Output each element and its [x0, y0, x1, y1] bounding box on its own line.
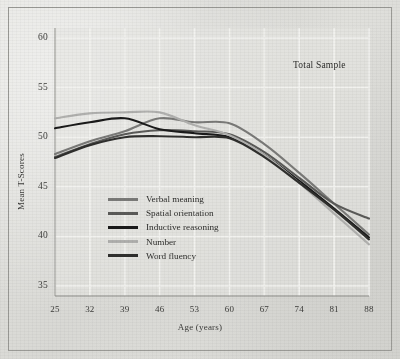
x-tick-label: 25: [41, 304, 69, 314]
legend-swatch-line-icon: [108, 198, 138, 201]
legend-item: Word fluency: [108, 249, 219, 263]
x-tick-label: 74: [285, 304, 313, 314]
y-tick-label: 50: [24, 131, 48, 141]
legend-swatch-line-icon: [108, 226, 138, 229]
legend-item: Verbal meaning: [108, 192, 219, 206]
legend-label: Spatial orientation: [146, 208, 214, 218]
x-tick-label: 39: [111, 304, 139, 314]
y-tick-label: 60: [24, 32, 48, 42]
legend-label: Number: [146, 237, 176, 247]
legend-item: Spatial orientation: [108, 206, 219, 220]
chart-legend: Verbal meaningSpatial orientationInducti…: [108, 192, 219, 263]
x-tick-label: 81: [320, 304, 348, 314]
x-tick-label: 53: [181, 304, 209, 314]
x-tick-label: 67: [250, 304, 278, 314]
legend-label: Verbal meaning: [146, 194, 204, 204]
chart-figure: Mean T-Scores Age (years) Total Sample 3…: [0, 0, 400, 359]
legend-item: Number: [108, 235, 219, 249]
legend-label: Inductive reasoning: [146, 222, 219, 232]
x-tick-label: 88: [355, 304, 383, 314]
y-tick-label: 45: [24, 181, 48, 191]
y-tick-label: 40: [24, 230, 48, 240]
legend-swatch-line-icon: [108, 212, 138, 215]
y-tick-label: 55: [24, 82, 48, 92]
x-tick-label: 46: [146, 304, 174, 314]
legend-swatch-line-icon: [108, 254, 138, 257]
x-tick-label: 32: [76, 304, 104, 314]
total-sample-annotation: Total Sample: [293, 60, 346, 70]
x-tick-label: 60: [215, 304, 243, 314]
y-tick-label: 35: [24, 280, 48, 290]
legend-item: Inductive reasoning: [108, 220, 219, 234]
x-axis-title: Age (years): [0, 322, 400, 332]
legend-label: Word fluency: [146, 251, 196, 261]
legend-swatch-line-icon: [108, 240, 138, 243]
